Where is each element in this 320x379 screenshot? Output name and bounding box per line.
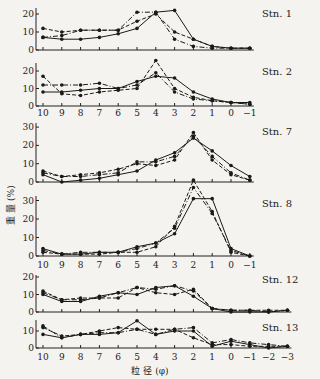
x-tick-label: 2 bbox=[191, 352, 197, 362]
data-point bbox=[173, 76, 177, 80]
data-point bbox=[173, 226, 177, 230]
data-point bbox=[154, 287, 158, 291]
data-point bbox=[248, 254, 252, 258]
y-tick-label: 10 bbox=[23, 326, 35, 336]
data-point bbox=[192, 336, 196, 340]
data-point bbox=[192, 186, 196, 190]
data-point bbox=[267, 343, 271, 347]
data-point bbox=[60, 175, 64, 179]
data-point bbox=[173, 90, 177, 94]
x-tick-label: 10 bbox=[37, 260, 49, 270]
x-tick-label: 1 bbox=[209, 352, 215, 362]
panel-stn-12: 01020Stn. 12 bbox=[23, 272, 299, 317]
data-point bbox=[60, 83, 64, 87]
x-tick-label: 6 bbox=[115, 352, 121, 362]
data-point bbox=[192, 97, 196, 101]
panel-title: Stn. 12 bbox=[262, 274, 298, 285]
x-tick-label: 10 bbox=[37, 108, 49, 118]
y-tick-label: 0 bbox=[28, 307, 34, 317]
data-point bbox=[98, 28, 102, 32]
data-point bbox=[98, 296, 102, 300]
x-tick-label: −3 bbox=[281, 352, 295, 362]
data-point bbox=[248, 341, 252, 345]
data-point bbox=[60, 30, 64, 34]
data-point bbox=[229, 101, 233, 105]
y-tick-label: 10 bbox=[23, 159, 35, 169]
data-point bbox=[173, 328, 177, 332]
data-point bbox=[154, 328, 158, 332]
x-tick-label: 7 bbox=[97, 260, 103, 270]
data-point bbox=[98, 251, 102, 255]
x-tick-label: 7 bbox=[97, 108, 103, 118]
data-point bbox=[192, 326, 196, 330]
data-point bbox=[98, 87, 102, 91]
x-tick-label: −2 bbox=[262, 352, 275, 362]
panel-title: Stn. 8 bbox=[262, 198, 292, 209]
data-point bbox=[192, 178, 196, 182]
data-point bbox=[173, 30, 177, 34]
data-point bbox=[41, 83, 45, 87]
x-tick-label: 3 bbox=[172, 352, 178, 362]
data-point bbox=[135, 80, 139, 84]
y-tick-label: 20 bbox=[23, 272, 35, 282]
data-point bbox=[154, 333, 158, 337]
y-tick-label: 10 bbox=[23, 233, 35, 243]
panel-title: Stn. 13 bbox=[262, 322, 298, 333]
data-point bbox=[135, 286, 139, 290]
panel-stn-13: 010109876543210−1−2−3Stn. 13 bbox=[23, 319, 299, 362]
data-point bbox=[267, 310, 271, 314]
data-point bbox=[135, 319, 139, 323]
data-point bbox=[248, 102, 252, 106]
data-point bbox=[79, 298, 83, 302]
data-point bbox=[286, 308, 290, 312]
x-tick-label: 9 bbox=[59, 352, 65, 362]
x-tick-label: 4 bbox=[153, 108, 159, 118]
data-point bbox=[60, 336, 64, 340]
data-point bbox=[79, 251, 83, 255]
data-point bbox=[173, 158, 177, 162]
panel-stn-8: 0102030109876543210−1Stn. 8 bbox=[23, 178, 292, 270]
data-point bbox=[135, 247, 139, 251]
x-tick-label: 3 bbox=[172, 108, 178, 118]
data-point bbox=[98, 173, 102, 177]
data-point bbox=[116, 28, 120, 32]
series-line-series-a bbox=[43, 10, 250, 48]
series-line-series-c bbox=[43, 12, 250, 48]
y-tick-label: 0 bbox=[28, 177, 34, 187]
panel-title: Stn. 7 bbox=[262, 126, 292, 137]
data-point bbox=[41, 324, 45, 328]
y-tick-label: 0 bbox=[28, 101, 34, 111]
panel-stn-1: 01020Stn. 1 bbox=[23, 8, 292, 55]
data-point bbox=[135, 169, 139, 173]
data-point bbox=[192, 289, 196, 293]
x-tick-label: 8 bbox=[78, 352, 84, 362]
y-tick-label: 20 bbox=[23, 214, 35, 224]
x-tick-label: −1 bbox=[243, 108, 256, 118]
data-point bbox=[192, 134, 196, 138]
data-point bbox=[210, 46, 214, 50]
x-tick-label: 2 bbox=[191, 108, 197, 118]
data-point bbox=[60, 37, 64, 41]
x-tick-label: 5 bbox=[134, 352, 140, 362]
data-point bbox=[41, 249, 45, 253]
data-point bbox=[192, 37, 196, 41]
series-line-series-c bbox=[43, 188, 250, 256]
data-point bbox=[116, 32, 120, 36]
data-point bbox=[154, 74, 158, 78]
y-tick-label: 0 bbox=[28, 45, 34, 55]
x-tick-label: 8 bbox=[78, 260, 84, 270]
x-tick-label: 1 bbox=[209, 108, 215, 118]
data-point bbox=[98, 36, 102, 40]
data-point bbox=[41, 27, 45, 31]
data-point bbox=[173, 284, 177, 288]
data-point bbox=[154, 71, 158, 75]
data-point bbox=[79, 178, 83, 182]
data-point bbox=[192, 90, 196, 94]
x-tick-label: 0 bbox=[228, 352, 234, 362]
data-point bbox=[135, 19, 139, 23]
data-point bbox=[248, 46, 252, 50]
data-point bbox=[248, 308, 252, 312]
x-tick-label: 9 bbox=[59, 108, 65, 118]
data-point bbox=[286, 345, 290, 349]
data-point bbox=[154, 241, 158, 245]
